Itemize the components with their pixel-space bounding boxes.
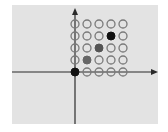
open-lattice-point xyxy=(107,56,115,64)
open-lattice-point xyxy=(83,44,91,52)
axes xyxy=(12,8,158,124)
open-lattice-point xyxy=(83,32,91,40)
open-lattice-point xyxy=(119,32,127,40)
lattice-points xyxy=(71,20,127,76)
filled-lattice-point xyxy=(71,68,79,76)
open-lattice-point xyxy=(107,20,115,28)
y-axis-arrow-icon xyxy=(72,8,78,15)
open-lattice-point xyxy=(119,44,127,52)
open-lattice-point xyxy=(119,20,127,28)
open-lattice-point xyxy=(95,56,103,64)
open-lattice-point xyxy=(95,20,103,28)
open-lattice-point xyxy=(95,32,103,40)
lattice-diagram xyxy=(0,0,168,132)
filled-lattice-point xyxy=(95,44,103,52)
open-lattice-point xyxy=(83,20,91,28)
open-lattice-point xyxy=(107,44,115,52)
open-lattice-point xyxy=(119,56,127,64)
x-axis-arrow-icon xyxy=(151,69,158,75)
filled-lattice-point xyxy=(83,56,91,64)
filled-lattice-point xyxy=(107,32,115,40)
